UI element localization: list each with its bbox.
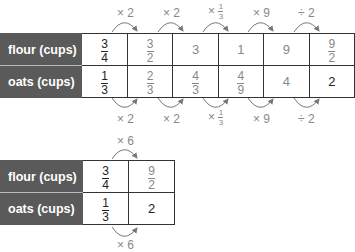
op-bottom-5: ÷ 2 [298,112,315,126]
cell2-oats-2: 2 [129,193,175,225]
row-oats-2: oats (cups) 13 2 [1,193,175,225]
op-bottom-3: × 13 [208,109,223,126]
row-header-flour-2: flour (cups) [1,161,83,193]
cell-oats-5: 4 [264,66,309,98]
cell-flour-1: 34 [82,34,127,66]
cell2-flour-1: 34 [83,161,129,193]
row-flour: flour (cups) 34 32 3 1 9 92 [1,34,355,66]
row-header-oats: oats (cups) [1,66,82,98]
op-top-1: × 2 [117,6,134,20]
op-bottom-4: × 9 [253,112,270,126]
op-top-3: × 13 [208,3,223,20]
cell-oats-2: 23 [127,66,172,98]
cell-oats-1: 13 [82,66,127,98]
cell-oats-4: 49 [218,66,263,98]
row-flour-2: flour (cups) 34 92 [1,161,175,193]
cell2-flour-2: 92 [129,161,175,193]
cell-flour-4: 1 [218,34,263,66]
row-header-oats-2: oats (cups) [1,193,83,225]
op-x6-top: × 6 [117,134,134,148]
cell-flour-3: 3 [173,34,218,66]
cell-flour-5: 9 [264,34,309,66]
op-x6-bottom: × 6 [117,238,134,252]
op-bottom-2: × 2 [163,112,180,126]
op-bottom-1: × 2 [117,112,134,126]
ratio-table-main: flour (cups) 34 32 3 1 9 92 oats (cups) … [0,33,355,98]
cell-flour-2: 32 [127,34,172,66]
cell-oats-3: 43 [173,66,218,98]
row-header-flour: flour (cups) [1,34,82,66]
op-top-2: × 2 [163,6,180,20]
op-top-4: × 9 [253,6,270,20]
cell-oats-6: 2 [309,66,354,98]
cell2-oats-1: 13 [83,193,129,225]
cell-flour-6: 92 [309,34,354,66]
op-top-5: ÷ 2 [298,6,315,20]
row-oats: oats (cups) 13 23 43 49 4 2 [1,66,355,98]
ratio-table-scaled: flour (cups) 34 92 oats (cups) 13 2 [0,160,175,225]
